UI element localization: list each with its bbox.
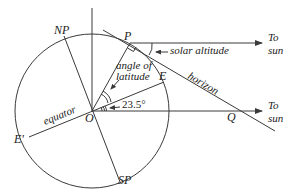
- right-angle-marker: [128, 47, 137, 52]
- label-p: P: [123, 29, 132, 43]
- label-e-prime: E': [13, 132, 24, 146]
- label-o: O: [85, 111, 94, 125]
- solar-altitude-arc: [149, 43, 152, 55]
- tilt-angle-arc-2: [103, 107, 105, 112]
- latitude-angle-arc-inner: [101, 94, 108, 103]
- label-solar-altitude: solar altitude: [170, 44, 229, 56]
- solar-altitude-diagram: NP P solar altitude To sun angle of lati…: [0, 0, 299, 191]
- label-e: E: [158, 69, 167, 83]
- label-latitude: latitude: [116, 70, 150, 82]
- label-sp: SP: [118, 173, 132, 187]
- label-horizon: horizon: [186, 69, 221, 97]
- label-to-sun-bottom-2: sun: [268, 112, 284, 124]
- label-np: NP: [53, 23, 70, 37]
- label-to-sun-top-2: sun: [268, 44, 284, 56]
- tilt-angle-arc-3: [105, 106, 107, 111]
- label-tilt-angle: 23.5°: [122, 98, 146, 110]
- label-equator: equator: [41, 103, 78, 127]
- label-q: Q: [227, 110, 236, 124]
- label-to-sun-top-1: To: [268, 31, 279, 43]
- tilt-pointer: [110, 107, 120, 108]
- label-to-sun-bottom-1: To: [268, 99, 279, 111]
